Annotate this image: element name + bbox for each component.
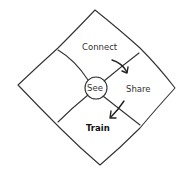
label-train: Train <box>86 123 110 133</box>
divider-upper-left <box>58 50 88 80</box>
divider-lower-left <box>58 95 88 122</box>
diagram-canvas: Connect Share Train See <box>0 0 186 176</box>
label-connect: Connect <box>82 42 118 52</box>
label-see: See <box>87 83 103 93</box>
divider-lower-right <box>103 96 140 125</box>
divider-upper-right <box>104 53 139 81</box>
arrow-connect-to-share <box>112 60 127 72</box>
label-share: Share <box>126 84 151 94</box>
